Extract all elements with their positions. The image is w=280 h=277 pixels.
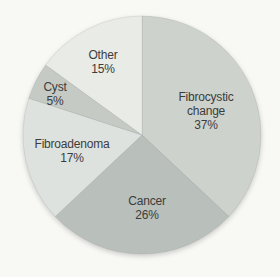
pie-label-other: Other15% [88,48,117,76]
pie-label-line: 26% [135,208,159,222]
pie-label-line: 5% [47,94,64,108]
pie-chart-figure: Fibrocysticchange37%Cancer26%Fibroadenom… [0,0,280,277]
pie-label-line: Fibroadenoma [35,137,111,151]
pie-label-line: change [187,104,226,118]
pie-label-line: Cyst [43,80,67,94]
pie-label-line: Other [88,48,117,62]
pie-label-line: 17% [60,151,84,165]
pie-label-line: 15% [91,62,115,76]
pie-label-line: Cancer [128,194,166,208]
pie-chart-svg: Fibrocysticchange37%Cancer26%Fibroadenom… [0,0,280,277]
pie-label-line: Fibrocystic [178,90,233,104]
pie-label-line: 37% [194,118,218,132]
